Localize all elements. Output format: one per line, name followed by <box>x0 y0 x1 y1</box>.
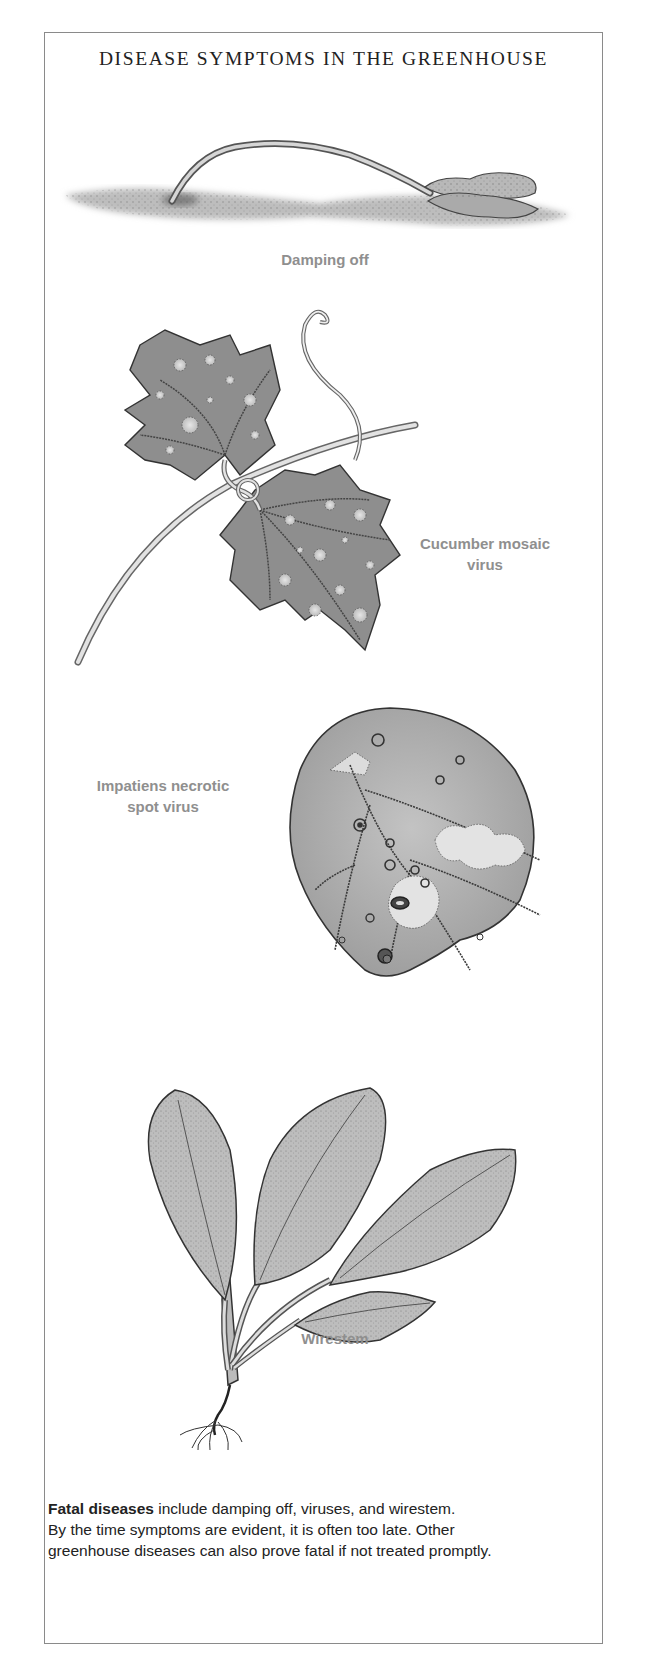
caption-line3: greenhouse diseases can also prove fatal… <box>48 1542 491 1559</box>
damping-off-illustration <box>60 135 580 235</box>
figure-title: DISEASE SYMPTOMS IN THE GREENHOUSE <box>44 48 603 70</box>
impatiens-necrotic-label-line2: spot virus <box>127 798 199 815</box>
impatiens-necrotic-label: Impatiens necrotic spot virus <box>68 775 258 817</box>
damping-off-label: Damping off <box>220 249 430 270</box>
cucumber-mosaic-illustration <box>70 300 430 670</box>
cucumber-mosaic-label-line1: Cucumber mosaic <box>420 535 550 552</box>
cucumber-mosaic-label: Cucumber mosaic virus <box>400 533 570 575</box>
cucumber-mosaic-label-line2: virus <box>467 556 503 573</box>
caption: Fatal diseases include damping off, viru… <box>48 1498 588 1561</box>
wirestem-label: Wirestem <box>260 1328 410 1349</box>
impatiens-necrotic-illustration <box>270 700 550 990</box>
caption-bold-lead: Fatal diseases <box>48 1500 154 1517</box>
wirestem-illustration <box>130 1010 530 1450</box>
caption-line1: include damping off, viruses, and wirest… <box>154 1500 455 1517</box>
caption-line2: By the time symptoms are evident, it is … <box>48 1521 455 1538</box>
impatiens-necrotic-label-line1: Impatiens necrotic <box>97 777 230 794</box>
